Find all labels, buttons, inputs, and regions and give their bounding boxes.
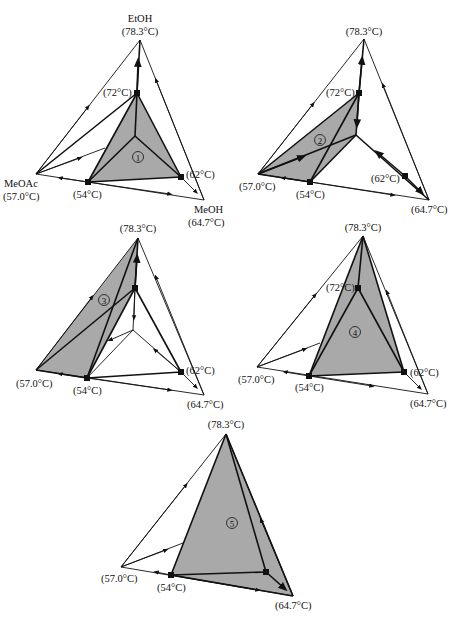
azeotrope-54-node xyxy=(168,572,174,578)
azeotrope-72-node xyxy=(134,90,140,96)
region-4-label: 4 xyxy=(353,328,358,338)
azeotrope-62-label: (62°C) xyxy=(186,365,215,377)
arrow-icon xyxy=(60,178,88,182)
region-3-label: 3 xyxy=(102,296,107,306)
azeotrope-54-label: (54°C) xyxy=(157,582,186,594)
arrow-icon xyxy=(156,80,204,200)
azeotrope-62-node xyxy=(402,173,408,179)
region-5-shading xyxy=(171,434,293,596)
meoac-bp: (57.0°C) xyxy=(3,191,40,203)
right-bp: (64.7°C) xyxy=(275,600,312,612)
azeotrope-54-node xyxy=(85,179,91,185)
azeotrope-62-node xyxy=(263,569,269,575)
azeotrope-62-label: (62°C) xyxy=(186,169,215,181)
arrow-icon xyxy=(134,288,135,318)
azeotrope-72-node xyxy=(132,285,138,291)
top-bp: (78.3°C) xyxy=(120,223,157,235)
top-bp: (78.3°C) xyxy=(346,26,383,38)
azeotrope-72-label: (72°C) xyxy=(326,87,355,99)
azeotrope-62-node xyxy=(401,369,407,375)
right-bp: (64.7°C) xyxy=(410,398,447,410)
arrow-icon xyxy=(155,350,181,372)
left-bp: (57.0°C) xyxy=(239,181,276,193)
arrow-icon xyxy=(359,60,362,93)
region-2-label: 2 xyxy=(318,136,323,146)
boundary xyxy=(135,288,181,372)
azeotrope-54-node xyxy=(307,179,313,185)
arrow-icon xyxy=(285,372,309,376)
diagram-5: (78.3°C) (57.0°C) (64.7°C) (54°C) 5 xyxy=(101,419,312,612)
arrow-icon xyxy=(137,62,138,93)
meoac-name: MeOAc xyxy=(4,178,38,189)
azeotrope-54-label: (54°C) xyxy=(73,189,102,201)
azeotrope-62-label: (62°C) xyxy=(371,173,400,185)
meoh-bp: (64.7°C) xyxy=(188,217,225,229)
boundary xyxy=(87,372,181,378)
azeotrope-72-label: (72°C) xyxy=(326,282,355,294)
region-5-label: 5 xyxy=(230,519,235,529)
diagram-3: (78.3°C) (57.0°C) (64.7°C) (54°C) (62°C)… xyxy=(16,223,224,411)
azeotrope-72-label: (72°C) xyxy=(103,87,132,99)
azeotrope-54-label: (54°C) xyxy=(296,189,325,201)
azeotrope-54-label: (54°C) xyxy=(295,382,324,394)
azeotrope-54-label: (54°C) xyxy=(73,385,102,397)
azeotrope-54-node xyxy=(84,375,90,381)
meoh-name: MeOH xyxy=(194,204,224,215)
left-bp: (57.0°C) xyxy=(16,378,53,390)
region-1-label: 1 xyxy=(136,153,141,163)
etoh-name: EtOH xyxy=(128,13,153,24)
left-bp: (57.0°C) xyxy=(101,573,138,585)
right-bp: (64.7°C) xyxy=(187,399,224,411)
diagram-1: EtOH (78.3°C) MeOAc (57.0°C) MeOH (64.7°… xyxy=(3,13,225,229)
region-4-shading xyxy=(309,236,404,376)
azeotrope-62-node xyxy=(178,174,184,180)
diagram-2: (78.3°C) (57.0°C) (64.7°C) (72°C) (54°C)… xyxy=(239,26,448,216)
top-bp: (78.3°C) xyxy=(208,419,245,431)
left-bp: (57.0°C) xyxy=(238,374,275,386)
arrow-icon xyxy=(110,330,133,340)
distillation-region-diagrams: EtOH (78.3°C) MeOAc (57.0°C) MeOH (64.7°… xyxy=(0,0,463,624)
top-bp: (78.3°C) xyxy=(345,222,382,234)
etoh-bp: (78.3°C) xyxy=(122,26,159,38)
azeotrope-62-label: (62°C) xyxy=(410,367,439,379)
azeotrope-62-node xyxy=(178,369,184,375)
right-bp: (64.7°C) xyxy=(411,204,448,216)
arrow-icon xyxy=(156,277,204,395)
azeotrope-72-node xyxy=(355,285,361,291)
diagram-4: (78.3°C) (57.0°C) (64.7°C) (72°C) (54°C)… xyxy=(238,222,447,410)
azeotrope-72-node xyxy=(356,90,362,96)
azeotrope-54-node xyxy=(306,373,312,379)
